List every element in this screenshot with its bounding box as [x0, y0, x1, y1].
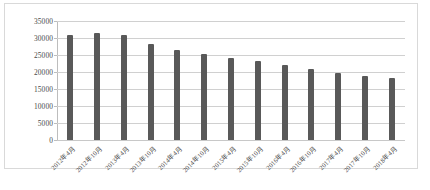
- bar[interactable]: [308, 69, 314, 140]
- x-axis-tick-label: 2018年4月: [370, 143, 399, 172]
- bar[interactable]: [174, 50, 180, 140]
- x-axis-tick-label: 2014年10月: [180, 143, 211, 174]
- x-axis-labels: 2012年4月2012年10月2013年4月2013年10月2014年4月201…: [57, 140, 405, 186]
- x-axis-tick-label: 2016年10月: [287, 143, 318, 174]
- bar[interactable]: [255, 61, 261, 140]
- y-axis-tick-label: 35000: [34, 17, 53, 26]
- bar-slot: [298, 21, 325, 140]
- bar-slot: [84, 21, 111, 140]
- bar[interactable]: [362, 76, 368, 140]
- bar-slot: [325, 21, 352, 140]
- bar[interactable]: [121, 35, 127, 140]
- bar[interactable]: [389, 78, 395, 140]
- bar-slot: [191, 21, 218, 140]
- y-axis-tick-label: 5000: [38, 119, 53, 128]
- bar[interactable]: [228, 58, 234, 140]
- y-axis-tick-label: 30000: [34, 34, 53, 43]
- bar-slot: [378, 21, 405, 140]
- chart-frame: 05000100001500020000250003000035000 2012…: [4, 3, 418, 169]
- bar-slot: [57, 21, 84, 140]
- x-axis-tick-label: 2012年10月: [73, 143, 104, 174]
- x-axis-tick-label: 2013年10月: [126, 143, 157, 174]
- bar[interactable]: [282, 65, 288, 140]
- bar[interactable]: [67, 35, 73, 140]
- bar-slot: [111, 21, 138, 140]
- bar-chart: 05000100001500020000250003000035000 2012…: [5, 4, 417, 168]
- plot-area: 05000100001500020000250003000035000 2012…: [57, 21, 405, 140]
- bar-slot: [137, 21, 164, 140]
- bar[interactable]: [148, 44, 154, 140]
- x-axis-tick-label: 2015年10月: [234, 143, 265, 174]
- y-axis-tick-label: 0: [49, 136, 53, 145]
- x-axis-tick-label: 2017年10月: [341, 143, 372, 174]
- bar[interactable]: [335, 73, 341, 140]
- bar-slot: [218, 21, 245, 140]
- bar-slot: [351, 21, 378, 140]
- y-axis-tick-label: 10000: [34, 102, 53, 111]
- bars-group: [57, 21, 405, 140]
- bar-slot: [271, 21, 298, 140]
- y-axis-tick-label: 15000: [34, 85, 53, 94]
- y-axis-tick-label: 25000: [34, 51, 53, 60]
- bar[interactable]: [201, 54, 207, 140]
- bar-slot: [164, 21, 191, 140]
- bar-slot: [244, 21, 271, 140]
- y-axis-tick-label: 20000: [34, 68, 53, 77]
- bar[interactable]: [94, 33, 100, 140]
